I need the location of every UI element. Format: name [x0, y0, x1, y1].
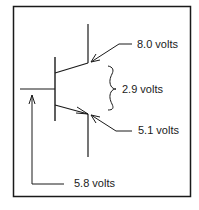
curly-brace-icon — [108, 66, 116, 110]
emitter — [55, 105, 88, 157]
transistor-diagram: 8.0 volts 2.9 volts 5.1 volts 5.8 volts — [0, 0, 199, 210]
emitter-voltage-label: 5.1 volts — [138, 124, 179, 136]
collector-voltage-label: 8.0 volts — [137, 38, 178, 50]
base-voltage-label: 5.8 volts — [74, 177, 115, 189]
collector-pointer — [91, 44, 132, 62]
emitter-pointer — [91, 115, 132, 131]
voltage-difference-label: 2.9 volts — [122, 83, 163, 95]
diagram-frame — [14, 7, 191, 197]
collector — [55, 24, 88, 73]
base-pointer — [29, 95, 64, 184]
